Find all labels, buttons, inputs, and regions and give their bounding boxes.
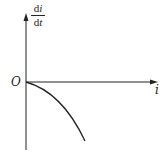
diagram-canvas [0,0,167,161]
y-axis-label: di dt [31,3,45,28]
origin-label: O [11,75,21,89]
x-axis-label: i [155,83,159,97]
y-axis-arrow-icon [24,13,29,21]
y-label-denominator: dt [31,17,45,28]
curve [26,82,85,141]
y-label-numerator: di [31,3,45,14]
